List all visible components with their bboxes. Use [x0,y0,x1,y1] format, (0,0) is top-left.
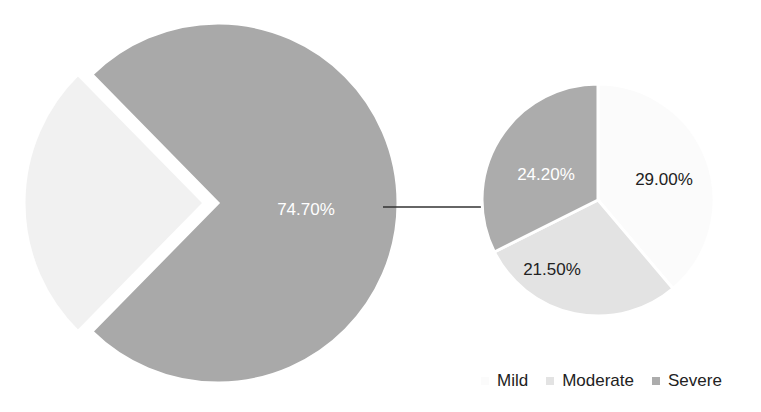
legend: Mild Moderate Severe [481,371,740,391]
pie-of-pie-chart: 74.70% 29.00%21.50%24.20% [0,0,761,412]
main-pie: 74.70% [24,23,398,383]
legend-item-mild: Mild [481,371,528,391]
label-moderate: 21.50% [523,260,581,279]
legend-swatch-moderate [546,377,554,385]
label-main-group: 74.70% [277,200,335,219]
legend-swatch-severe [652,377,660,385]
label-severe: 24.20% [517,165,575,184]
legend-swatch-mild [481,377,489,385]
label-mild: 29.00% [635,170,693,189]
legend-item-severe: Severe [652,371,722,391]
legend-item-moderate: Moderate [546,371,634,391]
secondary-pie: 29.00%21.50%24.20% [482,84,714,316]
legend-label-severe: Severe [668,371,722,391]
legend-label-moderate: Moderate [562,371,634,391]
legend-label-mild: Mild [497,371,528,391]
